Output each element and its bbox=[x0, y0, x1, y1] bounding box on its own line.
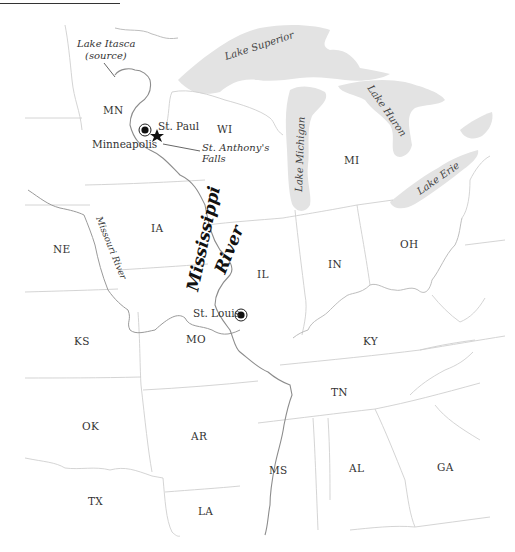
state-label-tx: TX bbox=[88, 495, 103, 507]
state-label-mi: MI bbox=[344, 154, 360, 166]
state-label-al: AL bbox=[348, 462, 364, 474]
lake-ontario-shape bbox=[460, 112, 493, 138]
city-label-st-louis: St. Louis bbox=[193, 307, 240, 319]
state-label-ar: AR bbox=[190, 430, 208, 442]
state-label-mo: MO bbox=[186, 333, 206, 345]
mississippi-title-line2: River bbox=[210, 221, 248, 277]
lake-michigan-shape bbox=[286, 86, 326, 211]
state-label-mn: MN bbox=[103, 104, 124, 116]
state-label-ks: KS bbox=[74, 335, 90, 347]
state-label-ok: OK bbox=[82, 420, 99, 432]
lake-itasca-leader bbox=[104, 63, 115, 77]
st-anthony-leader bbox=[163, 144, 200, 151]
city-label-st-paul: St. Paul bbox=[158, 120, 200, 132]
state-label-il: IL bbox=[257, 268, 269, 280]
state-label-oh: OH bbox=[400, 238, 418, 250]
state-label-ky: KY bbox=[363, 335, 379, 347]
city-minneapolis-marker[interactable] bbox=[139, 124, 151, 136]
state-label-la: LA bbox=[198, 505, 213, 517]
state-label-tn: TN bbox=[331, 386, 348, 398]
state-label-wi: WI bbox=[217, 123, 233, 135]
city-label-minneapolis: Minneapolis bbox=[92, 138, 157, 150]
mississippi-title-line1: Mississippi bbox=[182, 184, 224, 294]
state-label-ne: NE bbox=[53, 243, 70, 255]
state-label-in: IN bbox=[328, 258, 342, 270]
state-label-ms: MS bbox=[269, 464, 288, 476]
missouri-river-label: Missouri River bbox=[94, 214, 129, 281]
lake-itasca-label: Lake Itasca bbox=[76, 38, 135, 49]
lake-erie-label: Lake Erie bbox=[414, 160, 461, 198]
mississippi-river-map: St. Paul Minneapolis St. Louis Lake Itas… bbox=[0, 0, 515, 552]
state-label-ga: GA bbox=[437, 461, 454, 473]
lake-itasca-source-label: (source) bbox=[85, 50, 127, 61]
state-label-ia: IA bbox=[151, 222, 163, 234]
st-anthony-falls-label: St. Anthony's bbox=[202, 142, 269, 153]
st-anthony-falls-label-2: Falls bbox=[201, 153, 226, 164]
